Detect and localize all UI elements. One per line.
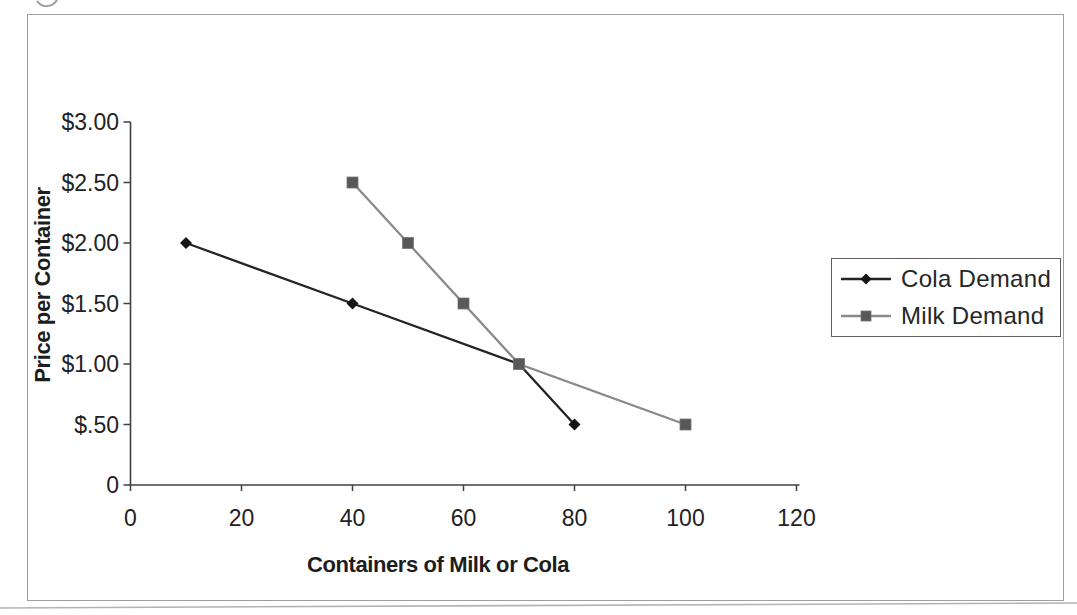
legend-item-milk-demand: Milk Demand	[840, 300, 1060, 333]
marker-square-milk-demand	[403, 238, 414, 249]
x-tick-label: 120	[755, 504, 839, 532]
series-line-cola-demand	[186, 243, 575, 425]
x-tick-label: 80	[533, 504, 617, 532]
marker-square-milk-demand	[458, 298, 469, 309]
demand-chart-figure: 0$.50$1.00$1.50$2.00$2.50$3.00 020406080…	[0, 0, 1077, 615]
scan-artifact-bottom-edge	[0, 598, 1077, 615]
series-line-milk-demand	[353, 183, 686, 425]
marker-square-milk-demand	[347, 177, 358, 188]
x-tick-label: 40	[311, 504, 395, 532]
x-tick-label: 100	[644, 504, 728, 532]
x-tick-label: 20	[200, 504, 284, 532]
legend-marker-diamond-icon	[840, 271, 892, 287]
marker-diamond-cola-demand	[180, 237, 192, 249]
legend: Cola DemandMilk Demand	[831, 258, 1061, 337]
x-tick-label: 60	[422, 504, 506, 532]
y-tick-label: 0	[29, 471, 119, 499]
y-axis-title: Price per Container	[27, 125, 59, 445]
legend-marker-square-icon	[840, 308, 892, 324]
x-axis-title: Containers of Milk or Cola	[238, 551, 638, 579]
marker-square-milk-demand	[680, 419, 691, 430]
marker-diamond-cola-demand	[347, 298, 359, 310]
legend-item-cola-demand: Cola Demand	[840, 263, 1060, 296]
x-tick-label: 0	[89, 504, 173, 532]
legend-label: Cola Demand	[901, 265, 1051, 293]
legend-label: Milk Demand	[901, 302, 1044, 330]
marker-square-milk-demand	[514, 359, 525, 370]
